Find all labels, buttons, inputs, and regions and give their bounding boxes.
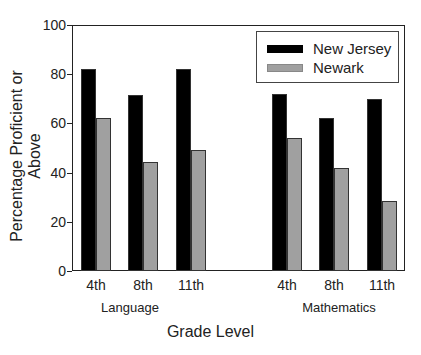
legend-label-newark: Newark [313, 59, 364, 76]
y-axis-title: Percentage Proficient or Above [8, 56, 44, 256]
bar-newark [382, 201, 397, 271]
y-tick-label: 100 [36, 18, 66, 32]
bar-newark [143, 162, 158, 271]
legend-swatch-new-jersey [267, 45, 303, 53]
y-tick-mark [67, 123, 72, 124]
legend-item-new-jersey: New Jersey [267, 40, 391, 57]
x-tick-label: 4th [76, 277, 116, 293]
x-tick-label: 4th [267, 277, 307, 293]
y-tick-mark [67, 271, 72, 272]
bar-newark [96, 118, 111, 271]
x-tick-label: 11th [362, 277, 402, 293]
bar-new-jersey [272, 94, 287, 271]
y-tick-mark [67, 25, 72, 26]
x-tick-label: 8th [314, 277, 354, 293]
bar-new-jersey [319, 118, 334, 271]
x-tick-label: 11th [171, 277, 211, 293]
y-tick-mark [67, 222, 72, 223]
legend-swatch-newark [267, 64, 303, 72]
bar-new-jersey [367, 99, 382, 271]
legend-item-newark: Newark [267, 59, 364, 76]
bar-newark [191, 150, 206, 271]
y-tick-mark [67, 74, 72, 75]
bar-newark [334, 168, 349, 271]
group-label-mathematics: Mathematics [284, 300, 394, 315]
bar-new-jersey [81, 69, 96, 271]
x-tick-label: 8th [123, 277, 163, 293]
bar-new-jersey [176, 69, 191, 271]
legend: New Jersey Newark [256, 31, 399, 83]
bar-new-jersey [128, 95, 143, 271]
y-tick-label: 0 [36, 264, 66, 278]
y-tick-mark [67, 173, 72, 174]
bar-newark [287, 138, 302, 271]
group-label-language: Language [75, 300, 185, 315]
x-axis-title: Grade Level [0, 323, 421, 341]
legend-label-new-jersey: New Jersey [313, 40, 391, 57]
